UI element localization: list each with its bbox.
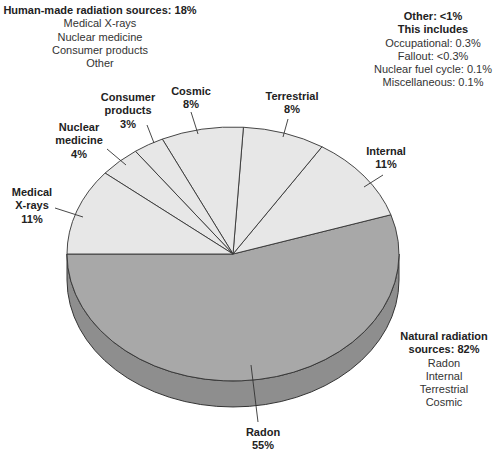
pie-slices xyxy=(67,127,399,381)
slice-name: X-rays xyxy=(12,199,52,212)
slice-label-internal: Internal 11% xyxy=(366,145,406,172)
natural-item: Radon xyxy=(400,357,487,370)
slice-label-terrestrial: Terrestrial 8% xyxy=(266,90,319,117)
other-item: Occupational: 0.3% xyxy=(374,37,492,50)
slice-label-cosmic: Cosmic 8% xyxy=(171,85,211,112)
slice-value: 3% xyxy=(101,118,155,131)
slice-value: 11% xyxy=(12,213,52,226)
natural-title: sources: 82% xyxy=(400,343,487,356)
leader-nuclear xyxy=(107,149,126,165)
other-legend: Other: <1% This includes Occupational: 0… xyxy=(374,10,492,90)
natural-item: Cosmic xyxy=(400,396,487,409)
slice-name: Consumer xyxy=(101,91,155,104)
natural-title: Natural radiation xyxy=(400,330,487,343)
natural-item: Internal xyxy=(400,370,487,383)
slice-name: Internal xyxy=(366,145,406,158)
slice-name: Cosmic xyxy=(171,85,211,98)
slice-name: products xyxy=(101,104,155,117)
slice-label-medical-x-rays: Medical X-rays 11% xyxy=(12,186,52,226)
other-item: Fallout: <0.3% xyxy=(374,50,492,63)
other-item: Miscellaneous: 0.1% xyxy=(374,76,492,89)
other-subtitle: This includes xyxy=(374,23,492,36)
slice-value: 4% xyxy=(55,148,103,161)
natural-legend: Natural radiation sources: 82% Radon Int… xyxy=(400,330,487,410)
slice-name: Medical xyxy=(12,186,52,199)
slice-value: 8% xyxy=(266,103,319,116)
other-title: Other: <1% xyxy=(374,10,492,23)
slice-label-radon: Radon 55% xyxy=(246,426,280,453)
slice-label-nuclear-medicine: Nuclear medicine 4% xyxy=(55,121,103,161)
slice-value: 55% xyxy=(246,439,280,452)
human-made-item: Consumer products xyxy=(3,44,196,57)
slice-label-consumer-products: Consumer products 3% xyxy=(101,91,155,131)
human-made-item: Medical X-rays xyxy=(3,17,196,30)
human-made-legend: Human-made radiation sources: 18% Medica… xyxy=(3,4,196,70)
slice-name: medicine xyxy=(55,134,103,147)
human-made-title: Human-made radiation sources: 18% xyxy=(3,4,196,17)
human-made-item: Nuclear medicine xyxy=(3,31,196,44)
slice-name: Terrestrial xyxy=(266,90,319,103)
other-item: Nuclear fuel cycle: 0.1% xyxy=(374,63,492,76)
human-made-item: Other xyxy=(3,57,196,70)
natural-item: Terrestrial xyxy=(400,383,487,396)
slice-name: Radon xyxy=(246,426,280,439)
slice-value: 8% xyxy=(171,98,211,111)
slice-value: 11% xyxy=(366,158,406,171)
slice-name: Nuclear xyxy=(55,121,103,134)
